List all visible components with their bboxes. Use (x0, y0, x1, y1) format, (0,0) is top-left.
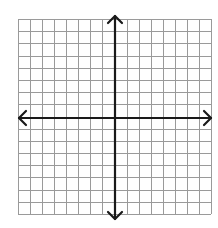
coordinate-plane (0, 0, 218, 228)
axes (19, 16, 211, 219)
